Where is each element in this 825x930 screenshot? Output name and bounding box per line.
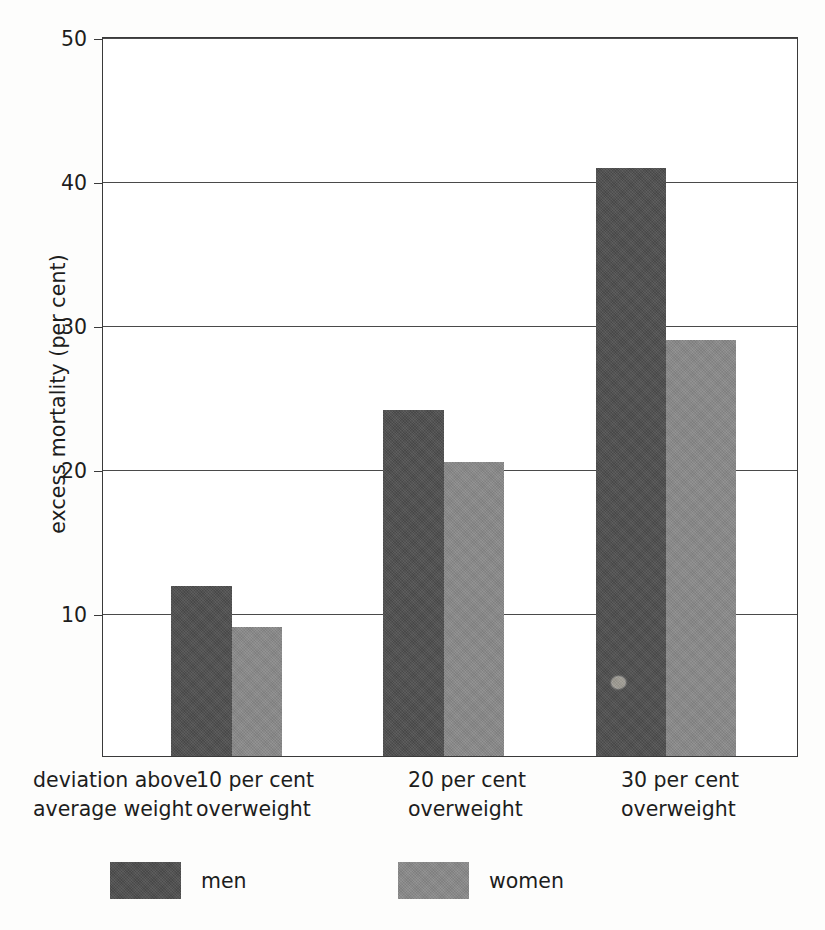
tickmark-40 bbox=[94, 183, 103, 184]
ytick-label-40: 40 bbox=[61, 171, 87, 195]
bar-women-10-per-cent[interactable] bbox=[232, 627, 282, 756]
x-axis-title-line2: average weight bbox=[33, 795, 198, 824]
x-tick-label-group-1-line2: overweight bbox=[196, 795, 314, 824]
x-tick-label-group-2-line1: 20 per cent bbox=[408, 768, 526, 792]
x-tick-label-group-3-line1: 30 per cent bbox=[621, 768, 739, 792]
x-tick-label-group-2: 20 per cent overweight bbox=[408, 766, 526, 824]
ytick-label-20: 20 bbox=[61, 459, 87, 483]
tickmark-10 bbox=[94, 615, 103, 616]
tickmark-20 bbox=[94, 471, 103, 472]
bar-men-10-per-cent[interactable] bbox=[171, 586, 232, 756]
legend-label-men: men bbox=[201, 869, 247, 893]
x-axis-title-line1: deviation above bbox=[33, 768, 198, 792]
ytick-label-10: 10 bbox=[61, 603, 87, 627]
gridline-40: 40 bbox=[103, 182, 797, 183]
bar-women-20-per-cent[interactable] bbox=[444, 462, 504, 756]
legend-label-women: women bbox=[489, 869, 564, 893]
chart-legend: men women bbox=[0, 862, 825, 922]
y-axis-title: excess mortality (per cent) bbox=[46, 184, 70, 604]
print-blemish-mark bbox=[612, 677, 625, 688]
bar-men-20-per-cent[interactable] bbox=[383, 410, 444, 756]
tickmark-50 bbox=[94, 39, 103, 40]
legend-swatch-women-icon bbox=[398, 862, 469, 899]
x-axis-labels: deviation above average weight 10 per ce… bbox=[0, 766, 825, 836]
x-tick-label-group-1: 10 per cent overweight bbox=[196, 766, 314, 824]
legend-item-men[interactable]: men bbox=[110, 862, 247, 899]
ytick-label-30: 30 bbox=[61, 315, 87, 339]
tickmark-30 bbox=[94, 327, 103, 328]
bar-chart-figure: excess mortality (per cent) 50 40 30 20 … bbox=[0, 0, 825, 930]
legend-swatch-men-icon bbox=[110, 862, 181, 899]
legend-item-women[interactable]: women bbox=[398, 862, 564, 899]
x-tick-label-group-3-line2: overweight bbox=[621, 795, 739, 824]
bar-men-30-per-cent[interactable] bbox=[596, 168, 666, 756]
x-axis-title: deviation above average weight bbox=[33, 766, 198, 824]
x-tick-label-group-2-line2: overweight bbox=[408, 795, 526, 824]
gridline-50: 50 bbox=[103, 38, 797, 39]
plot-area: 50 40 30 20 10 bbox=[102, 37, 798, 757]
ytick-label-50: 50 bbox=[61, 27, 87, 51]
x-tick-label-group-3: 30 per cent overweight bbox=[621, 766, 739, 824]
x-tick-label-group-1-line1: 10 per cent bbox=[196, 768, 314, 792]
bar-women-30-per-cent[interactable] bbox=[666, 340, 736, 756]
gridline-30: 30 bbox=[103, 326, 797, 327]
